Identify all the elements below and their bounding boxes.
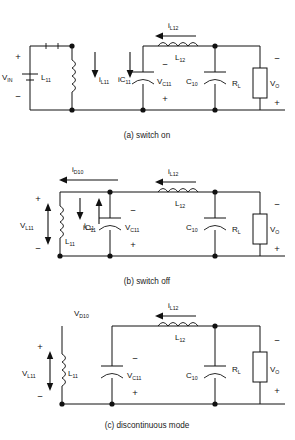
- vin-plus-sign: +: [15, 51, 21, 62]
- vl11-label-c: VL11: [22, 369, 36, 379]
- vl11-plus-b: +: [35, 193, 41, 204]
- resistor-rl-c: [253, 352, 267, 382]
- panel-b-nodes: [57, 189, 217, 258]
- panel-a-caption: (a) switch on: [124, 131, 171, 140]
- inductor-l12-c: [158, 323, 198, 327]
- rl-label-a: RL: [232, 79, 241, 89]
- capacitor-c11-a: [132, 72, 154, 84]
- vl11-label-b: VL11: [20, 221, 34, 231]
- current-arrow-ic11-a: [127, 52, 134, 78]
- vc11-plus-a: +: [162, 93, 168, 104]
- panel-c-wires: [62, 326, 285, 404]
- l12-label-b: L12: [175, 199, 185, 209]
- capacitor-c11-c: [101, 366, 123, 378]
- id10-label-b: iD10: [72, 165, 83, 175]
- c10-label-b: C10: [186, 223, 198, 233]
- panel-b-switch-off: iD10 + − VL11 L11 iL11 iC11 − + VC11 iL1…: [0, 146, 295, 294]
- vc11-minus-c: −: [132, 353, 138, 364]
- inductor-l11-a: [72, 60, 76, 92]
- current-arrow-il11-b: [77, 198, 84, 220]
- vc11-plus-c: +: [132, 387, 138, 398]
- c10-label-a: C10: [186, 77, 198, 87]
- vc11-plus-b: +: [130, 239, 136, 250]
- capacitor-c11-b: [99, 218, 121, 230]
- capacitor-c10-a: [204, 72, 226, 84]
- vc11-label-a: VC11: [157, 77, 172, 87]
- panel-b-wires: [60, 192, 285, 256]
- il12-label-a: iL12: [168, 21, 179, 31]
- vin-label: VIN: [2, 73, 13, 83]
- resistor-rl-a: [253, 68, 267, 98]
- vc11-label-b: VC11: [125, 223, 140, 233]
- vo-label-c: VO: [270, 365, 279, 375]
- vc11-minus-a: −: [162, 59, 168, 70]
- vo-plus-a: +: [274, 97, 280, 108]
- l11-label-a: L11: [41, 73, 51, 83]
- panel-a-switch-on: + − VIN L11 iL11 iC11 − + VC11 iL12 L12 …: [0, 0, 295, 148]
- capacitor-c10-b: [204, 218, 226, 230]
- vc11-minus-b: −: [130, 205, 136, 216]
- l12-label-c: L12: [175, 333, 185, 343]
- l11-label-b: L11: [65, 237, 75, 247]
- il11-label-a: iL11: [99, 75, 109, 85]
- vo-minus-b: −: [274, 199, 280, 210]
- inductor-l12-b: [158, 189, 198, 193]
- vo-plus-c: +: [274, 385, 280, 396]
- vl11-minus-c: −: [37, 391, 43, 402]
- vo-minus-c: −: [274, 335, 280, 346]
- inductor-l12-a: [158, 43, 198, 47]
- vo-label-a: VO: [270, 79, 279, 89]
- vc11-label-c: VC11: [127, 371, 142, 381]
- ic11-label-a: iC11: [118, 75, 131, 85]
- inductor-l11-b: [60, 206, 64, 238]
- rl-label-b: RL: [232, 225, 241, 235]
- current-arrow-il12-b: [155, 179, 196, 186]
- il12-label-b: iL12: [168, 167, 179, 177]
- panel-c-caption: (c) discontinuous mode: [105, 421, 190, 430]
- il12-label-c: iL12: [168, 301, 179, 311]
- vo-plus-b: +: [274, 243, 280, 254]
- current-arrow-il12-a: [155, 33, 196, 40]
- rl-label-c: RL: [232, 365, 241, 375]
- panel-b-caption: (b) switch off: [124, 277, 171, 286]
- vl11-minus-b: −: [35, 243, 41, 254]
- c10-label-c: C10: [186, 371, 198, 381]
- current-arrow-il11-a: [92, 52, 99, 78]
- vd10-label-c: VD10: [74, 309, 89, 319]
- panel-c-nodes: [59, 323, 217, 406]
- vo-label-b: VO: [270, 225, 279, 235]
- vin-minus-sign: −: [15, 91, 21, 102]
- capacitor-c10-c: [204, 366, 226, 378]
- l12-label-a: L12: [175, 53, 185, 63]
- inductor-l11-c: [62, 354, 66, 386]
- voltage-arrow-vl11-c: [47, 351, 53, 391]
- circuit-figure: + − VIN L11 iL11 iC11 − + VC11 iL12 L12 …: [0, 0, 295, 440]
- l11-label-c: L11: [68, 369, 78, 379]
- resistor-rl-b: [253, 214, 267, 244]
- vl11-plus-c: +: [37, 341, 43, 352]
- panel-c-discontinuous-mode: VD10 + − VL11 L11 − + VC11 iL12 L12 C10 …: [0, 294, 295, 440]
- current-arrow-ic11-b: [96, 198, 103, 224]
- ic11-label-b: iC11: [83, 223, 96, 233]
- current-arrow-il12-c: [155, 313, 196, 320]
- vo-minus-a: −: [274, 53, 280, 64]
- current-arrow-id10-b: [59, 177, 118, 184]
- voltage-arrow-vl11-b: [45, 203, 51, 245]
